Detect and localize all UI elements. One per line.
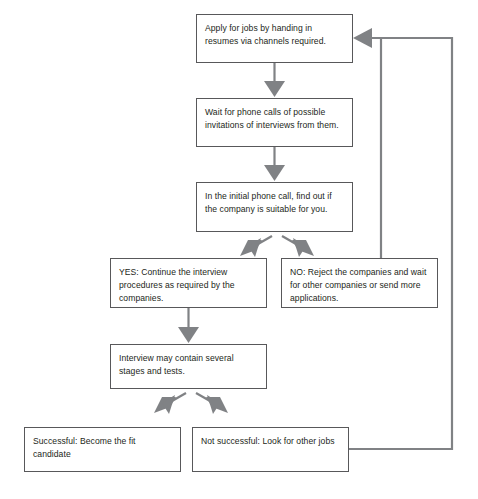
node-apply-for-jobs-label: Apply for jobs by handing in resumes via…	[197, 15, 352, 48]
node-apply-for-jobs: Apply for jobs by handing in resumes via…	[196, 14, 353, 63]
node-successful-candidate: Successful: Become the fit candidate	[24, 427, 181, 472]
connector-interview-to-notsuccess	[196, 393, 228, 414]
node-no-reject-companies-label: NO: Reject the companies and wait for ot…	[282, 259, 437, 306]
node-yes-continue-interview-label: YES: Continue the interview procedures a…	[111, 259, 266, 306]
connector-initial-to-no	[282, 236, 314, 257]
connector-interview-to-success	[154, 393, 186, 414]
node-no-reject-companies: NO: Reject the companies and wait for ot…	[281, 258, 438, 308]
node-wait-for-phone-calls-label: Wait for phone calls of possible invitat…	[197, 99, 352, 132]
flowchart-canvas: Apply for jobs by handing in resumes via…	[0, 0, 478, 499]
node-successful-candidate-label: Successful: Become the fit candidate	[25, 428, 180, 461]
node-yes-continue-interview: YES: Continue the interview procedures a…	[110, 258, 267, 308]
node-interview-stages: Interview may contain several stages and…	[110, 344, 267, 389]
connector-yes-to-interview	[178, 308, 199, 343]
connector-notsuccess-loopback-to-apply	[349, 38, 452, 449]
node-not-successful-look-for-other-jobs-label: Not successful: Look for other jobs	[193, 428, 343, 448]
connector-initial-to-yes	[240, 236, 272, 257]
connector-no-loopback-to-apply	[353, 28, 381, 258]
node-initial-phone-call: In the initial phone call, find out if t…	[196, 182, 353, 232]
connector-wait-to-initial	[264, 147, 285, 181]
connector-apply-to-wait	[264, 63, 285, 97]
flowchart-connectors	[0, 0, 478, 499]
node-not-successful-look-for-other-jobs: Not successful: Look for other jobs	[192, 427, 349, 472]
node-initial-phone-call-label: In the initial phone call, find out if t…	[197, 183, 352, 216]
node-wait-for-phone-calls: Wait for phone calls of possible invitat…	[196, 98, 353, 147]
node-interview-stages-label: Interview may contain several stages and…	[111, 345, 266, 378]
